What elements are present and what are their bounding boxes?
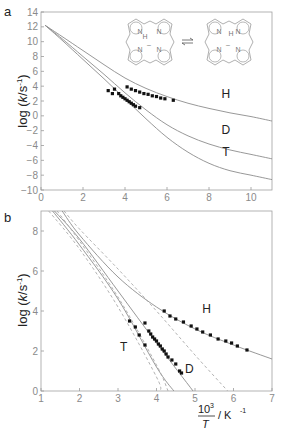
data-point [163, 309, 166, 312]
curve-t-dashed-1 [49, 211, 161, 391]
data-point [236, 344, 239, 347]
curve-d-dashed- [64, 211, 228, 391]
y-tick-label: −8 [27, 170, 39, 181]
data-point [149, 332, 152, 335]
data-point [143, 343, 146, 346]
data-point [174, 362, 177, 365]
x-label-unit: / K [218, 409, 232, 421]
x-label-exponent: 3 [210, 402, 214, 409]
panel-a-y-axis-label: log (k/s-1) [15, 74, 30, 127]
y-tick-label: 14 [27, 7, 39, 18]
data-point [168, 314, 171, 317]
porphyrin-tautomer-inset: NNNNH–NNNNH– [126, 19, 253, 65]
data-point [107, 89, 110, 92]
data-point [143, 321, 146, 324]
y-tick-label: 2 [32, 96, 38, 107]
data-point [230, 341, 233, 344]
x-tick-label: 7 [269, 393, 275, 404]
data-point [130, 88, 133, 91]
data-point [180, 371, 183, 374]
panel-b-frame [41, 211, 272, 391]
curve-h [45, 25, 272, 121]
data-point [190, 324, 193, 327]
x-tick-label: 4 [154, 393, 160, 404]
y-tick-label: 0 [32, 110, 38, 121]
svg-text:–: – [147, 41, 151, 48]
curve-label-h: H [202, 302, 211, 316]
data-point [151, 94, 154, 97]
porphyrin-structure: NNNNH– [205, 19, 253, 65]
curve-label-d: D [221, 123, 230, 137]
y-tick-label: −10 [21, 185, 38, 196]
data-point [195, 327, 198, 330]
panel-b-plot-area: HDT [49, 211, 272, 391]
x-tick-label: 0 [38, 192, 44, 203]
curve-label-t: T [120, 340, 128, 354]
x-label-numerator: 10 [198, 403, 210, 415]
data-point [163, 97, 166, 100]
x-tick-label: 3 [115, 393, 121, 404]
svg-text:H: H [142, 33, 147, 40]
svg-text:N: N [137, 46, 142, 53]
svg-text:N: N [156, 28, 161, 35]
curve-h [62, 211, 272, 359]
panel-b-label: b [4, 210, 11, 225]
data-point [138, 106, 141, 109]
panel-a-chart: a 024681014121086420−2−4−6−8−10 HDT log … [4, 4, 272, 203]
x-tick-label: 6 [164, 192, 170, 203]
data-point [147, 93, 150, 96]
curve-label-d: D [185, 362, 194, 376]
data-point [142, 92, 145, 95]
panel-a-label: a [4, 4, 12, 19]
data-point [138, 333, 141, 336]
data-point [134, 325, 137, 328]
data-point [126, 85, 129, 88]
data-point [155, 339, 158, 342]
data-point [245, 348, 248, 351]
data-point [209, 333, 212, 336]
y-tick-label: 4 [32, 81, 38, 92]
curve-d [54, 211, 193, 391]
y-tick-label: 4 [32, 306, 38, 317]
data-point [163, 349, 166, 352]
x-tick-label: 6 [231, 393, 237, 404]
data-point [182, 320, 185, 323]
data-point [111, 92, 114, 95]
data-point [134, 89, 137, 92]
svg-text:N: N [216, 28, 221, 35]
y-tick-label: −6 [27, 155, 39, 166]
data-point [217, 337, 220, 340]
porphyrin-structure: NNNNH– [126, 19, 174, 65]
data-point [155, 95, 158, 98]
x-tick-label: 2 [77, 393, 83, 404]
figure: a 024681014121086420−2−4−6−8−10 HDT log … [0, 0, 287, 436]
svg-text:N: N [235, 46, 240, 53]
panel-b-chart: b 123456786420 HDT log (k/s-1) 10 3 T / … [4, 210, 275, 430]
x-tick-label: 8 [206, 192, 212, 203]
y-tick-label: 0 [32, 386, 38, 397]
curve-label-h: H [221, 87, 230, 101]
data-point [224, 339, 227, 342]
x-tick-label: 10 [245, 192, 257, 203]
data-point [170, 358, 173, 361]
y-tick-label: 6 [32, 66, 38, 77]
svg-text:N: N [235, 28, 240, 35]
x-tick-label: 1 [38, 393, 44, 404]
data-point [159, 96, 162, 99]
y-tick-label: 6 [32, 266, 38, 277]
data-point [172, 99, 175, 102]
data-point [174, 317, 177, 320]
svg-text:H: H [228, 30, 233, 37]
data-point [134, 105, 137, 108]
x-label-unit-exponent: -1 [240, 407, 246, 414]
panel-a-frame [41, 12, 272, 190]
x-label-denominator: T [202, 418, 210, 430]
svg-text:N: N [156, 46, 161, 53]
y-tick-label: 8 [32, 51, 38, 62]
curve-label-t: T [222, 145, 230, 159]
panel-b-x-axis-label: 10 3 T / K -1 [198, 402, 246, 430]
y-tick-label: 12 [27, 21, 39, 32]
y-tick-label: 8 [32, 226, 38, 237]
data-point [128, 319, 131, 322]
panel-b-y-axis-label: log (k/s-1) [15, 273, 30, 326]
